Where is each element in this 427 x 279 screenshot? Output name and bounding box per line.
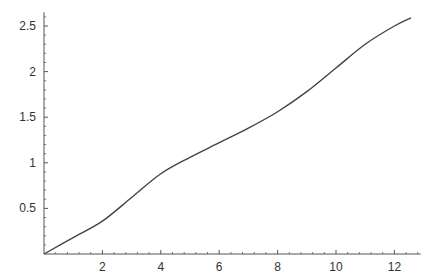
y-tick-label: 2	[29, 65, 36, 79]
ticks: 246810120.511.522.5	[19, 17, 417, 274]
y-tick-label: 2.5	[19, 19, 36, 33]
series-line-curve	[44, 18, 411, 254]
x-tick-label: 8	[274, 260, 281, 274]
x-tick-label: 6	[216, 260, 223, 274]
y-tick-label: 0.5	[19, 201, 36, 215]
x-tick-label: 12	[388, 260, 402, 274]
x-tick-label: 4	[157, 260, 164, 274]
axes	[44, 12, 421, 254]
y-tick-label: 1.5	[19, 110, 36, 124]
x-tick-label: 10	[329, 260, 343, 274]
y-tick-label: 1	[29, 156, 36, 170]
x-tick-label: 2	[99, 260, 106, 274]
series-lines	[44, 18, 411, 254]
line-chart: 246810120.511.522.5	[0, 0, 427, 279]
